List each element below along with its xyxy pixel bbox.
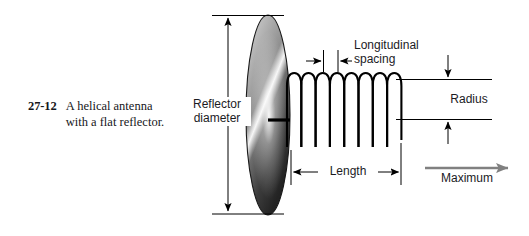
helix-turn — [387, 73, 401, 147]
helix-coil — [287, 73, 401, 147]
label-reflector-diameter: Reflector diameter — [183, 97, 251, 126]
label-longitudinal-spacing: Longitudinal spacing — [352, 39, 438, 66]
dimension-longitudinal-spacing — [306, 50, 355, 72]
label-length: Length — [318, 165, 378, 179]
reflector-highlight — [246, 15, 290, 215]
longitudinal-spacing-line-1: Longitudinal — [354, 38, 419, 52]
helix-turn — [359, 73, 373, 147]
reflector-disc — [246, 15, 290, 215]
longitudinal-spacing-line-2: spacing — [354, 52, 395, 66]
label-maximum: Maximum — [427, 172, 507, 186]
helix-turn — [373, 73, 387, 147]
reflector-diameter-line-2: diameter — [194, 111, 241, 125]
reflector-diameter-line-1: Reflector — [193, 97, 241, 111]
figure-helical-antenna: 27-12 A helical antenna with a flat refl… — [0, 0, 529, 236]
helix-turn — [330, 73, 344, 147]
helix-turn — [316, 73, 330, 147]
helix-turn — [344, 73, 358, 147]
helix-turn — [301, 73, 315, 147]
antenna-diagram — [0, 0, 529, 236]
label-radius: Radius — [441, 92, 497, 108]
